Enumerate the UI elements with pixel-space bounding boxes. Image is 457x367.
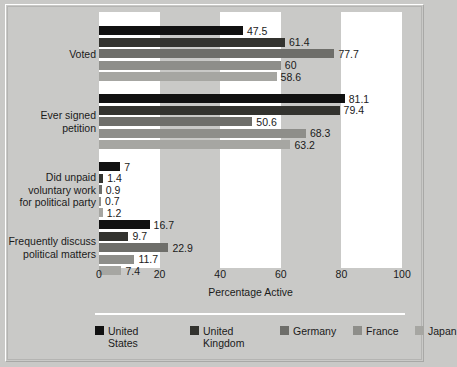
bar-row: 79.4 — [99, 106, 402, 115]
legend-label-line: Kingdom — [203, 337, 244, 349]
bar[interactable] — [99, 72, 277, 81]
bar[interactable] — [99, 129, 306, 138]
legend-item[interactable]: UnitedStates — [95, 325, 138, 349]
bar-row: 47.5 — [99, 26, 402, 35]
legend-item[interactable]: UnitedKingdom — [190, 325, 244, 349]
x-tick-label: 0 — [96, 268, 102, 280]
legend-swatch-icon — [190, 326, 199, 335]
legend-label: France — [366, 325, 399, 337]
category-label-line: Frequently discuss — [0, 235, 96, 248]
category-label: Voted — [0, 48, 96, 61]
bar-row: 16.7 — [99, 220, 402, 229]
bar-value-label: 77.7 — [338, 48, 358, 59]
bar-value-label: 61.4 — [289, 37, 309, 48]
category-label: Frequently discusspolitical matters — [0, 235, 96, 260]
legend-label-line: United — [108, 325, 138, 337]
bar[interactable] — [99, 38, 285, 47]
bar-row: 61.4 — [99, 38, 402, 47]
bar[interactable] — [99, 220, 150, 229]
legend-label: Japan — [428, 325, 457, 337]
bar-value-label: 16.7 — [154, 219, 174, 230]
bar[interactable] — [99, 197, 101, 206]
bar-value-label: 1.4 — [107, 173, 122, 184]
bar[interactable] — [99, 106, 340, 115]
legend-swatch-icon — [353, 326, 362, 335]
category-label-line: Ever signed — [0, 109, 96, 122]
bar[interactable] — [99, 174, 103, 183]
bar[interactable] — [99, 232, 128, 241]
x-tick-label: 100 — [393, 268, 411, 280]
bar-row: 50.6 — [99, 117, 402, 126]
bar-value-label: 50.6 — [256, 116, 276, 127]
legend-swatch-icon — [280, 326, 289, 335]
category-label: Did unpaidvoluntary workfor political pa… — [0, 171, 96, 209]
bar-row: 9.7 — [99, 232, 402, 241]
bar[interactable] — [99, 49, 334, 58]
bar-row: 68.3 — [99, 129, 402, 138]
bar-row: 7 — [99, 162, 402, 171]
chart-legend: UnitedStatesUnitedKingdomGermanyFranceJa… — [95, 325, 410, 357]
category-label-line: political matters — [0, 248, 96, 261]
legend-swatch-icon — [415, 326, 424, 335]
legend-separator — [95, 313, 405, 315]
x-tick-label: 80 — [336, 268, 348, 280]
legend-label: UnitedKingdom — [203, 325, 244, 349]
bar-value-label: 7 — [124, 161, 130, 172]
bar[interactable] — [99, 94, 345, 103]
bar[interactable] — [99, 162, 120, 171]
bar-row: 1.2 — [99, 208, 402, 217]
legend-label-line: France — [366, 325, 399, 337]
bar-row: 60 — [99, 61, 402, 70]
x-tick-label: 60 — [275, 268, 287, 280]
bar-value-label: 68.3 — [310, 128, 330, 139]
bar[interactable] — [99, 140, 290, 149]
legend-label-line: Germany — [293, 325, 336, 337]
legend-label: Germany — [293, 325, 336, 337]
legend-label-line: Japan — [428, 325, 457, 337]
bar-series-container: 47.561.477.76058.681.179.450.668.363.271… — [99, 12, 402, 268]
bar-row: 1.4 — [99, 174, 402, 183]
category-label: Ever signedpetition — [0, 109, 96, 134]
bar[interactable] — [99, 117, 252, 126]
bar-row: 81.1 — [99, 94, 402, 103]
legend-label-line: States — [108, 337, 138, 349]
legend-item[interactable]: France — [353, 325, 399, 337]
bar[interactable] — [99, 243, 168, 252]
bar-value-label: 9.7 — [132, 231, 147, 242]
plot-area: 47.561.477.76058.681.179.450.668.363.271… — [99, 12, 402, 268]
bar-value-label: 47.5 — [247, 25, 267, 36]
legend-label: UnitedStates — [108, 325, 138, 349]
bar-value-label: 58.6 — [281, 71, 301, 82]
category-label-line: Did unpaid — [0, 171, 96, 184]
legend-item[interactable]: Japan — [415, 325, 457, 337]
bar-value-label: 60 — [285, 60, 297, 71]
bar-group: 81.179.450.668.363.2 — [99, 94, 402, 152]
bar-value-label: 63.2 — [294, 139, 314, 150]
bar[interactable] — [99, 255, 134, 264]
legend-swatch-icon — [95, 326, 104, 335]
bar[interactable] — [99, 26, 243, 35]
bar-row: 22.9 — [99, 243, 402, 252]
bar-row: 77.7 — [99, 49, 402, 58]
bar[interactable] — [99, 61, 281, 70]
bar-row: 0.7 — [99, 197, 402, 206]
bar-value-label: 0.9 — [106, 184, 121, 195]
legend-label-line: United — [203, 325, 244, 337]
category-label-line: voluntary work — [0, 184, 96, 197]
legend-item[interactable]: Germany — [280, 325, 336, 337]
bar-group: 47.561.477.76058.6 — [99, 26, 402, 84]
bar-row: 58.6 — [99, 72, 402, 81]
bar[interactable] — [99, 208, 103, 217]
bar-group: 71.40.90.71.2 — [99, 162, 402, 220]
bar-value-label: 79.4 — [344, 105, 364, 116]
x-tick-label: 40 — [214, 268, 226, 280]
bar-row: 63.2 — [99, 140, 402, 149]
x-axis-ticks: 020406080100 — [99, 268, 402, 284]
bar-value-label: 22.9 — [172, 242, 192, 253]
bar-value-label: 0.7 — [105, 196, 120, 207]
category-label-line: petition — [0, 122, 96, 135]
bar-value-label: 11.7 — [138, 254, 158, 265]
bar[interactable] — [99, 185, 102, 194]
bar-value-label: 81.1 — [349, 93, 369, 104]
